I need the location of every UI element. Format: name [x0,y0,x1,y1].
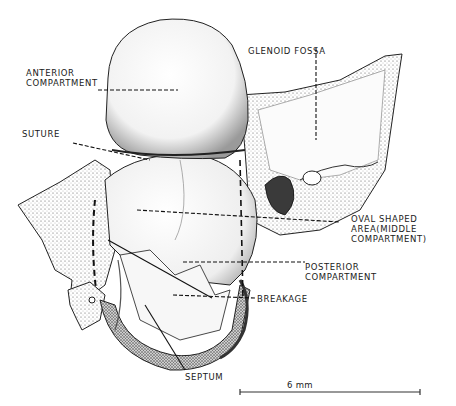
label-glenoid-fossa: GLENOID FOSSA [248,46,326,56]
label-oval-line1: OVAL SHAPED [351,214,417,224]
anterior-compartment-dome [106,19,248,159]
label-anterior-line1: ANTERIOR [26,68,75,78]
label-posterior-line2: COMPARTMENT [305,272,377,282]
label-breakage: BREAKAGE [257,294,308,304]
anatomical-illustration [0,0,456,406]
scale-bar-label: 6 mm [287,380,313,390]
label-anterior-line2: COMPARTMENT [26,78,98,88]
left-bone-flap [18,160,115,305]
label-oval-line2: AREA(MIDDLE [351,224,417,234]
glenoid-fossa-plate [240,54,402,235]
scale-bar [240,389,420,395]
label-posterior-line1: POSTERIOR [305,262,359,272]
label-oval-line3: COMPARTMENT) [351,234,427,244]
label-septum: SEPTUM [185,372,223,382]
label-suture: SUTURE [22,129,60,139]
